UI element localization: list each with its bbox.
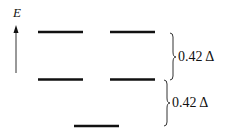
energy-axis-arrow-icon <box>14 25 19 73</box>
energy-diagram-canvas <box>0 0 225 137</box>
brace-upper-gap-icon <box>170 33 176 80</box>
upper-gap-label: 0.42 Δ <box>178 50 214 64</box>
lower-gap-label: 0.42 Δ <box>172 96 208 110</box>
energy-axis-label: E <box>13 6 21 19</box>
brace-lower-gap-icon <box>164 80 170 126</box>
